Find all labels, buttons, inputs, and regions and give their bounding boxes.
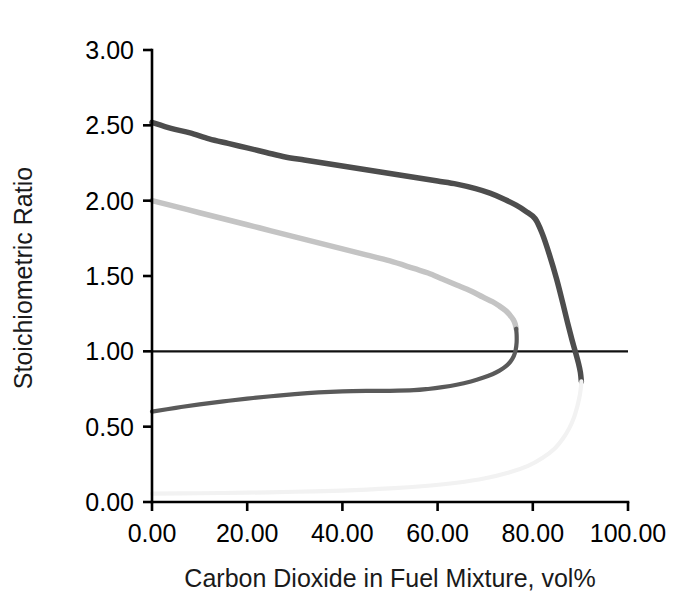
y-tick-label: 0.50 <box>85 413 134 441</box>
y-tick-label: 0.00 <box>85 488 134 516</box>
stoichiometric-ratio-chart: 0.0020.0040.0060.0080.00100.00 0.000.501… <box>0 0 699 615</box>
y-tick-label: 1.50 <box>85 262 134 290</box>
y-axis-title: Stoichiometric Ratio <box>9 167 37 389</box>
y-tick-label: 2.50 <box>85 111 134 139</box>
x-tick-label: 100.00 <box>590 519 666 547</box>
x-tick-label: 60.00 <box>406 519 469 547</box>
x-tick-label: 20.00 <box>216 519 279 547</box>
x-tick-label: 0.00 <box>128 519 177 547</box>
y-tick-label: 1.00 <box>85 337 134 365</box>
chart-container: 0.0020.0040.0060.0080.00100.00 0.000.501… <box>0 0 699 615</box>
x-axis-title: Carbon Dioxide in Fuel Mixture, vol% <box>184 564 595 592</box>
y-tick-label: 2.00 <box>85 187 134 215</box>
y-tick-label: 3.00 <box>85 36 134 64</box>
x-tick-label: 80.00 <box>502 519 565 547</box>
x-tick-label: 40.00 <box>311 519 374 547</box>
